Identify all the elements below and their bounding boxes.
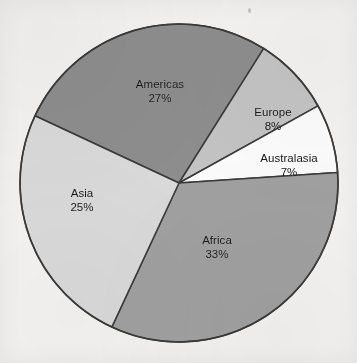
pie-label-africa: Africa 33% (174, 234, 260, 261)
scan-artifact-speck (248, 8, 251, 13)
pie-chart-figure: Americas 27% Europe 8% Australasia 7% Af… (0, 0, 357, 363)
pie-label-americas: Americas 27% (106, 78, 214, 105)
pie-chart-canvas (0, 0, 357, 363)
pie-label-australasia: Australasia 7% (238, 152, 340, 179)
pie-slices-group (20, 24, 338, 342)
pie-label-americas-value: 27% (106, 92, 214, 106)
pie-label-europe-value: 8% (235, 120, 311, 134)
pie-label-australasia-name: Australasia (238, 152, 340, 166)
pie-label-europe-name: Europe (235, 106, 311, 120)
pie-label-africa-value: 33% (174, 248, 260, 262)
pie-label-asia-name: Asia (46, 187, 118, 201)
pie-label-asia-value: 25% (46, 201, 118, 215)
pie-label-australasia-value: 7% (238, 166, 340, 180)
pie-label-asia: Asia 25% (46, 187, 118, 214)
pie-label-africa-name: Africa (174, 234, 260, 248)
pie-label-americas-name: Americas (106, 78, 214, 92)
pie-label-europe: Europe 8% (235, 106, 311, 133)
